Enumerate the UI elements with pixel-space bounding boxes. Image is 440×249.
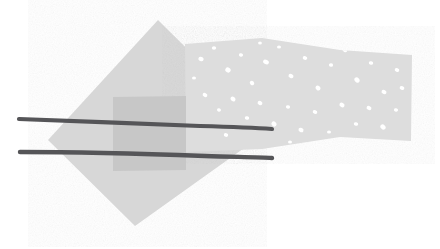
speckled-band-shape bbox=[185, 38, 412, 152]
speckle-dot bbox=[258, 42, 262, 45]
speckle-dot bbox=[277, 45, 281, 48]
speckle-dot bbox=[192, 76, 196, 79]
overlap-rectangle-shape bbox=[113, 96, 186, 171]
image-canvas bbox=[0, 0, 440, 249]
speckle-dot bbox=[288, 140, 292, 143]
speckle-dot bbox=[212, 46, 216, 50]
speckle-dot bbox=[327, 130, 331, 133]
abstract-shapes-illustration bbox=[0, 0, 440, 249]
